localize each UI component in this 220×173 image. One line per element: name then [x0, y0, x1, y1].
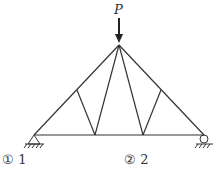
roller-support-icon — [195, 135, 213, 148]
load-arrow-icon — [115, 18, 123, 43]
option-value: 2 — [140, 152, 148, 167]
left-top-chord — [34, 45, 119, 135]
right-top-chord — [119, 45, 204, 135]
option-2: ② 2 — [124, 152, 148, 167]
option-marker: ② — [124, 152, 136, 167]
option-marker: ① — [2, 152, 14, 167]
option-value: 1 — [18, 152, 26, 167]
option-1: ① 1 — [2, 152, 26, 167]
web-member — [143, 90, 161, 135]
pin-support-icon — [24, 135, 44, 148]
truss-diagram — [0, 0, 220, 173]
load-label: P — [114, 2, 123, 17]
web-member — [77, 90, 95, 135]
